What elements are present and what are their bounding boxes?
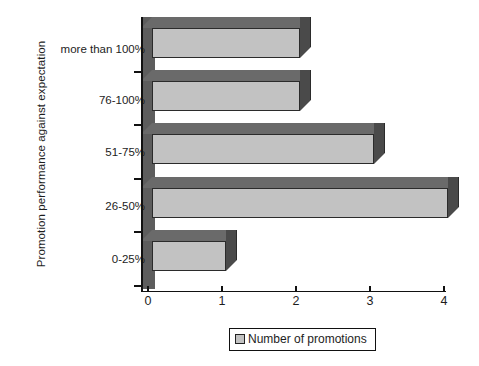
y-axis-line <box>141 17 143 292</box>
bar-side-face <box>226 230 237 260</box>
x-axis-tick-label-3: 3 <box>355 294 385 308</box>
bar-front-face <box>152 188 448 218</box>
bar-top-face <box>152 177 448 188</box>
bar-side-face <box>374 123 385 153</box>
bar-0-25 <box>152 241 226 271</box>
bar-front-face <box>152 134 374 164</box>
x-axis-tick-label-0: 0 <box>133 294 163 308</box>
bar-front-face <box>152 28 300 58</box>
category-label-76-100: 76-100% <box>99 94 145 106</box>
bar-chart: Promotion performance against expectatio… <box>0 0 479 366</box>
bar-side-face <box>300 17 311 47</box>
x-axis-tick <box>369 286 371 292</box>
x-axis-tick <box>147 286 149 292</box>
bar-more-than-100 <box>152 28 300 58</box>
plot-area: more than 100% 76-100% 51-75% 26-50% 0-2… <box>0 0 479 366</box>
x-axis-tick-label-4: 4 <box>429 294 459 308</box>
bar-side-face <box>300 70 311 100</box>
bar-51-75 <box>152 134 374 164</box>
x-axis-tick-label-2: 2 <box>281 294 311 308</box>
category-label-26-50: 26-50% <box>105 200 145 212</box>
legend-label-number-of-promotions: Number of promotions <box>248 332 367 346</box>
category-label-more-than-100: more than 100% <box>61 43 145 55</box>
x-axis-line <box>141 291 446 293</box>
bar-76-100 <box>152 81 300 111</box>
x-axis-tick <box>443 286 445 292</box>
category-label-0-25: 0-25% <box>112 253 145 265</box>
x-axis-tick <box>295 286 297 292</box>
chart-legend: Number of promotions <box>229 328 376 351</box>
bar-front-face <box>152 81 300 111</box>
bar-side-face <box>448 177 459 207</box>
category-label-51-75: 51-75% <box>105 146 145 158</box>
bar-top-face <box>152 123 374 134</box>
bar-top-face <box>152 17 300 28</box>
x-axis-tick <box>221 286 223 292</box>
bar-front-face <box>152 241 226 271</box>
bar-top-face <box>152 70 300 81</box>
bar-26-50 <box>152 188 448 218</box>
x-axis-tick-label-1: 1 <box>207 294 237 308</box>
bar-top-face <box>152 230 226 241</box>
legend-swatch-icon <box>235 334 245 344</box>
